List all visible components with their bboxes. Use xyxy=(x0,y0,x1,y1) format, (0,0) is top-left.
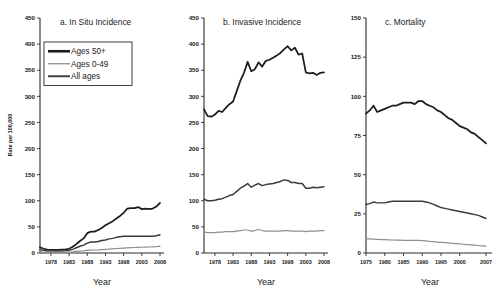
y-tick-label: 450 xyxy=(189,14,200,21)
x-tick-label: 1993 xyxy=(263,259,275,265)
y-tick-label: 0 xyxy=(32,249,36,256)
series-line-ages-0-49 xyxy=(366,239,486,246)
y-tick-label: 0 xyxy=(358,249,362,256)
y-tick-label: 50 xyxy=(28,223,35,230)
y-tick-label: 200 xyxy=(189,145,200,152)
x-tick-label: 1995 xyxy=(435,259,447,265)
chart-panel-b: 050100150200250300350400450 197819831988… xyxy=(166,0,332,298)
panel-c-x-ticks: 1975198019851990199520002007 xyxy=(360,253,492,265)
y-tick-label: 150 xyxy=(351,14,362,21)
panel-a-x-ticks: 1978198319881993199820032008 xyxy=(45,253,166,265)
x-tick-label: 1988 xyxy=(245,259,257,265)
x-tick-label: 1993 xyxy=(99,259,111,265)
x-tick-label: 2008 xyxy=(318,259,330,265)
x-tick-label: 1983 xyxy=(63,259,75,265)
series-line-all-ages xyxy=(204,180,324,201)
x-tick-label: 2000 xyxy=(454,259,466,265)
panel-b-plot: 050100150200250300350400450 197819831988… xyxy=(189,14,330,265)
legend-label-ages-0-49: Ages 0-49 xyxy=(71,60,109,69)
y-tick-label: 350 xyxy=(189,66,200,73)
series-line-all-ages xyxy=(366,201,486,218)
x-tick-label: 1998 xyxy=(282,259,294,265)
panel-a-y-ticks: 050100150200250300350400450 xyxy=(25,14,40,256)
series-line-all-ages xyxy=(40,235,160,251)
figure-container: 050100150200250300350400450 197819831988… xyxy=(0,0,498,298)
y-tick-label: 50 xyxy=(354,171,361,178)
x-tick-label: 2003 xyxy=(300,259,312,265)
y-tick-label: 125 xyxy=(351,53,362,60)
y-tick-label: 200 xyxy=(25,145,36,152)
panel-a-x-axis-label: Year xyxy=(93,277,111,287)
panel-b-title: b. Invasive Incidence xyxy=(223,17,302,27)
panel-a-title: a. In Situ Incidence xyxy=(60,17,132,27)
y-tick-label: 25 xyxy=(354,210,361,217)
x-tick-label: 1978 xyxy=(209,259,221,265)
series-line-ages-50 xyxy=(204,46,324,117)
chart-panel-a: 050100150200250300350400450 197819831988… xyxy=(0,0,168,298)
y-tick-label: 300 xyxy=(189,93,200,100)
legend-label-ages-50: Ages 50+ xyxy=(71,47,106,56)
series-line-ages-0-49 xyxy=(204,230,324,233)
chart-panel-c: 0255075100125150 19751980198519901995200… xyxy=(330,0,498,298)
y-tick-label: 100 xyxy=(351,93,362,100)
y-tick-label: 400 xyxy=(189,40,200,47)
y-tick-label: 250 xyxy=(189,119,200,126)
x-tick-label: 1988 xyxy=(81,259,93,265)
y-tick-label: 150 xyxy=(189,171,200,178)
x-tick-label: 1983 xyxy=(227,259,239,265)
y-tick-label: 300 xyxy=(25,93,36,100)
series-line-ages-50 xyxy=(40,203,160,250)
y-tick-label: 75 xyxy=(354,132,361,139)
panel-a-svg: 050100150200250300350400450 197819831988… xyxy=(0,0,168,298)
panel-c-x-axis-label: Year xyxy=(421,277,439,287)
x-tick-label: 2007 xyxy=(480,259,492,265)
panel-a-series xyxy=(40,203,160,252)
panel-b-series xyxy=(204,46,324,232)
y-tick-label: 150 xyxy=(25,171,36,178)
legend: Ages 50+Ages 0-49All ages xyxy=(44,42,132,86)
y-tick-label: 0 xyxy=(196,249,200,256)
x-tick-label: 1975 xyxy=(360,259,372,265)
panel-c-plot: 0255075100125150 19751980198519901995200… xyxy=(351,14,492,265)
y-tick-label: 450 xyxy=(25,14,36,21)
panel-b-x-ticks: 1978198319881993199820032008 xyxy=(209,253,330,265)
x-tick-label: 1980 xyxy=(379,259,391,265)
x-tick-label: 2003 xyxy=(136,259,148,265)
panel-c-svg: 0255075100125150 19751980198519901995200… xyxy=(330,0,498,298)
panel-c-y-ticks: 0255075100125150 xyxy=(351,14,366,256)
x-tick-label: 1978 xyxy=(45,259,57,265)
x-tick-label: 2008 xyxy=(154,259,166,265)
panel-b-svg: 050100150200250300350400450 197819831988… xyxy=(166,0,332,298)
y-tick-label: 350 xyxy=(25,66,36,73)
series-line-ages-50 xyxy=(366,101,486,143)
panel-a-y-axis-label: Rate per 100,000 xyxy=(7,114,13,157)
panel-b-x-axis-label: Year xyxy=(257,277,275,287)
x-tick-label: 1998 xyxy=(118,259,130,265)
y-tick-label: 400 xyxy=(25,40,36,47)
y-tick-label: 100 xyxy=(189,197,200,204)
panel-c-title: c. Mortality xyxy=(385,17,426,27)
panel-c-series xyxy=(366,101,486,246)
x-tick-label: 1990 xyxy=(416,259,428,265)
panel-b-y-ticks: 050100150200250300350400450 xyxy=(189,14,204,256)
x-tick-label: 1985 xyxy=(398,259,410,265)
y-tick-label: 100 xyxy=(25,197,36,204)
y-tick-label: 50 xyxy=(192,223,199,230)
legend-label-all-ages: All ages xyxy=(71,72,100,81)
y-tick-label: 250 xyxy=(25,119,36,126)
